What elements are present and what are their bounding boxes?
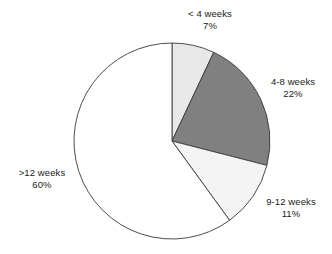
pie-label-gt-12-weeks-name: >12 weeks bbox=[2, 167, 82, 179]
pie-label-lt-4-weeks-name: < 4 weeks bbox=[167, 8, 253, 20]
pie-label-lt-4-weeks-percent: 7% bbox=[167, 20, 253, 32]
pie-label-4-8-weeks: 4-8 weeks 22% bbox=[256, 76, 330, 100]
pie-label-9-12-weeks-name: 9-12 weeks bbox=[251, 196, 331, 208]
pie-label-lt-4-weeks: < 4 weeks 7% bbox=[167, 8, 253, 32]
pie-label-4-8-weeks-name: 4-8 weeks bbox=[256, 76, 330, 88]
pie-label-9-12-weeks-percent: 11% bbox=[251, 208, 331, 220]
pie-label-gt-12-weeks: >12 weeks 60% bbox=[2, 167, 82, 191]
pie-slice-group bbox=[74, 43, 270, 239]
pie-chart: < 4 weeks 7% 4-8 weeks 22% 9-12 weeks 11… bbox=[0, 0, 332, 254]
pie-label-9-12-weeks: 9-12 weeks 11% bbox=[251, 196, 331, 220]
pie-label-4-8-weeks-percent: 22% bbox=[256, 88, 330, 100]
pie-label-gt-12-weeks-percent: 60% bbox=[2, 179, 82, 191]
